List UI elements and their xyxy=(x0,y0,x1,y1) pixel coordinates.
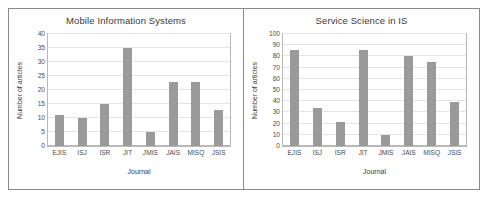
y-axis-tick-label: 5 xyxy=(41,128,45,135)
chart-panel-service-science-in-is: Service Science in IS Number of articles… xyxy=(244,9,479,189)
y-axis-tick-label: 30 xyxy=(38,58,45,65)
bar-slot: JAIS xyxy=(397,34,420,146)
bar-slot: ISJ xyxy=(306,34,329,146)
x-axis-tick-label: JSIS xyxy=(212,149,226,156)
x-axis-label: Journal xyxy=(47,168,231,175)
y-axis-tick-label: 80 xyxy=(273,52,280,59)
x-axis-tick-label: JAIS xyxy=(166,149,180,156)
bar xyxy=(313,108,322,146)
y-axis-tick-label: 20 xyxy=(38,86,45,93)
bar-slot: EJIS xyxy=(48,34,71,146)
y-axis-label-text: Number of articles xyxy=(16,62,23,119)
y-axis-tick-label: 70 xyxy=(273,63,280,70)
plot-area: 0510152025303540 EJISISJISRJITJMISJAISMI… xyxy=(47,33,231,147)
bar xyxy=(123,48,132,146)
x-axis-tick-label: EJIS xyxy=(52,149,66,156)
bar-slot: EJIS xyxy=(283,34,306,146)
y-axis-tick-label: 30 xyxy=(273,108,280,115)
y-axis-tick-label: 35 xyxy=(38,44,45,51)
y-axis-tick-label: 0 xyxy=(276,142,280,149)
bar-slot: ISR xyxy=(94,34,117,146)
x-axis-tick-label: ISR xyxy=(335,149,346,156)
x-axis-tick-label: JAIS xyxy=(402,149,416,156)
bar-series: EJISISJISRJITJMISJAISMISQJSIS xyxy=(283,34,466,146)
bar xyxy=(78,118,87,146)
chart-title: Mobile Information Systems xyxy=(9,15,243,26)
bar-slot: JMIS xyxy=(375,34,398,146)
bar xyxy=(359,50,368,146)
bar xyxy=(450,102,459,146)
x-axis-tick-label: JIT xyxy=(123,149,132,156)
bar xyxy=(169,82,178,146)
y-axis-tick-label: 60 xyxy=(273,74,280,81)
bar-slot: ISJ xyxy=(71,34,94,146)
bar-slot: JIT xyxy=(116,34,139,146)
x-axis-tick-label: ISJ xyxy=(77,149,87,156)
chart-title: Service Science in IS xyxy=(244,15,479,26)
x-axis-tick-label: JSIS xyxy=(448,149,462,156)
chart-panel-mobile-information-systems: Mobile Information Systems Number of art… xyxy=(9,9,244,189)
bar-slot: JMIS xyxy=(139,34,162,146)
y-axis-tick-label: 15 xyxy=(38,100,45,107)
x-axis-tick-label: JMIS xyxy=(378,149,393,156)
x-axis-tick-label: JIT xyxy=(358,149,367,156)
y-axis-tick-label: 10 xyxy=(38,114,45,121)
y-axis-tick-label: 25 xyxy=(38,72,45,79)
y-axis-label-text: Number of articles xyxy=(251,62,258,119)
y-axis-tick-label: 10 xyxy=(273,130,280,137)
bar xyxy=(336,122,345,146)
y-axis-tick-label: 40 xyxy=(38,30,45,37)
bar-slot: MISQ xyxy=(420,34,443,146)
y-axis-label: Number of articles xyxy=(248,33,260,147)
bar-slot: JSIS xyxy=(207,34,230,146)
bar xyxy=(427,62,436,146)
y-axis-tick-label: 20 xyxy=(273,119,280,126)
bar xyxy=(290,50,299,146)
bar xyxy=(404,56,413,146)
bar xyxy=(381,135,390,146)
bar xyxy=(191,82,200,146)
bar xyxy=(214,110,223,146)
bar-slot: MISQ xyxy=(185,34,208,146)
bar-slot: JSIS xyxy=(443,34,466,146)
y-axis-tick-label: 90 xyxy=(273,41,280,48)
bar-slot: ISR xyxy=(329,34,352,146)
y-axis-tick-label: 50 xyxy=(273,86,280,93)
bar-slot: JIT xyxy=(352,34,375,146)
bar xyxy=(55,115,64,146)
plot-area: 0102030405060708090100 EJISISJISRJITJMIS… xyxy=(282,33,467,147)
x-axis-tick-label: EJIS xyxy=(287,149,301,156)
y-axis-tick-label: 0 xyxy=(41,142,45,149)
y-axis-label: Number of articles xyxy=(13,33,25,147)
x-axis-tick-label: MISQ xyxy=(423,149,440,156)
bar xyxy=(100,104,109,146)
y-axis-tick-label: 40 xyxy=(273,97,280,104)
x-axis-tick-label: JMIS xyxy=(143,149,158,156)
bar xyxy=(146,132,155,146)
x-axis-tick-label: MISQ xyxy=(187,149,204,156)
bar-slot: JAIS xyxy=(162,34,185,146)
figure-panel: Mobile Information Systems Number of art… xyxy=(8,8,480,190)
x-axis-label: Journal xyxy=(282,168,467,175)
x-axis-tick-label: ISJ xyxy=(313,149,323,156)
bar-series: EJISISJISRJITJMISJAISMISQJSIS xyxy=(48,34,230,146)
x-axis-tick-label: ISR xyxy=(99,149,110,156)
y-axis-tick-label: 100 xyxy=(269,30,280,37)
